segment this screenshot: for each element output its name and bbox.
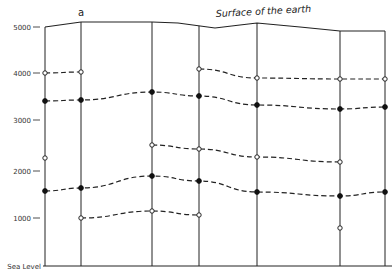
open-circle-point [197, 67, 201, 71]
filled-circle-point [255, 190, 260, 195]
filled-circle-point [338, 107, 343, 112]
y-tick-label: 3000 [13, 117, 31, 125]
column-label-a: a [78, 7, 84, 18]
dashed-stratum-open-lower [81, 211, 199, 218]
filled-circle-point [150, 174, 155, 179]
data-points [43, 67, 388, 230]
dashed-stratum-filled-upper [45, 92, 385, 109]
dashed-stratum-open-upper-right [199, 69, 385, 79]
filled-circle-point [79, 98, 84, 103]
filled-circle-point [383, 190, 388, 195]
filled-circle-point [43, 99, 48, 104]
open-circle-point [255, 155, 259, 159]
filled-circle-point [383, 105, 388, 110]
y-tick-label: 5000 [13, 24, 31, 32]
open-circle-point [197, 147, 201, 151]
filled-circle-point [255, 103, 260, 108]
open-circle-point [150, 209, 154, 213]
dashed-stratum-open-middle [152, 145, 340, 162]
open-circle-point [383, 77, 387, 81]
open-circle-point [255, 76, 259, 80]
filled-circle-point [197, 94, 202, 99]
filled-circle-point [150, 90, 155, 95]
filled-circle-point [43, 189, 48, 194]
open-circle-point [338, 160, 342, 164]
open-circle-point [43, 156, 47, 160]
dashed-stratum-open-upper-left [45, 72, 81, 73]
open-circle-point [197, 213, 201, 217]
filled-circle-point [338, 194, 343, 199]
vertical-boreholes [45, 22, 385, 266]
y-tick-label: Sea Level [7, 263, 41, 271]
filled-circle-point [79, 186, 84, 191]
y-axis: 50004000300020001000Sea Level [7, 24, 41, 271]
open-circle-point [79, 70, 83, 74]
y-tick-label: 2000 [13, 168, 31, 176]
y-tick-label: 4000 [13, 70, 31, 78]
open-circle-point [150, 143, 154, 147]
open-circle-point [43, 71, 47, 75]
surface-title: Surface of the earth [216, 3, 312, 19]
surface-of-earth-line [45, 22, 385, 31]
open-circle-point [338, 226, 342, 230]
filled-circle-point [197, 179, 202, 184]
geological-cross-section-diagram: 50004000300020001000Sea Level Surface of… [0, 0, 392, 279]
stratum-lines [45, 69, 385, 218]
y-tick-label: 1000 [13, 215, 31, 223]
dashed-stratum-filled-lower [45, 176, 385, 196]
open-circle-point [338, 77, 342, 81]
open-circle-point [79, 216, 83, 220]
